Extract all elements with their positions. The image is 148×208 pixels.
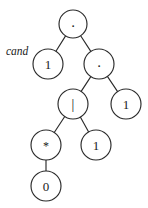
node-label: | bbox=[72, 97, 75, 112]
tree-node-symbol: 1 bbox=[33, 49, 63, 79]
tree-edge bbox=[80, 117, 88, 132]
tree-node-alternation: | bbox=[58, 89, 88, 119]
nodes-layer: .1.|1*10 bbox=[31, 10, 141, 201]
tree-edge bbox=[81, 77, 91, 92]
tree-node-concatenation: . bbox=[84, 49, 114, 79]
syntax-tree-figure: .1.|1*10 cand bbox=[0, 0, 148, 208]
node-label: 1 bbox=[45, 57, 52, 72]
node-label: 1 bbox=[93, 138, 100, 153]
tree-node-concatenation: . bbox=[59, 10, 87, 38]
tree-edge bbox=[56, 36, 66, 51]
node-label: . bbox=[71, 14, 75, 30]
tree-edge bbox=[81, 36, 91, 52]
tree-node-kleene-star: * bbox=[31, 130, 61, 160]
tree-edge bbox=[54, 117, 65, 133]
tree-node-symbol: 1 bbox=[111, 89, 141, 119]
tree-edge bbox=[107, 76, 117, 91]
node-label: 0 bbox=[43, 179, 50, 194]
tree-canvas: .1.|1*10 cand bbox=[0, 0, 148, 208]
node-label: . bbox=[97, 54, 101, 70]
node-label: 1 bbox=[123, 97, 130, 112]
node-label: * bbox=[43, 139, 49, 153]
tree-node-symbol: 0 bbox=[31, 171, 61, 201]
annotation-label-cand: cand bbox=[6, 45, 29, 57]
tree-node-symbol: 1 bbox=[81, 130, 111, 160]
annotations-layer: cand bbox=[6, 45, 29, 57]
